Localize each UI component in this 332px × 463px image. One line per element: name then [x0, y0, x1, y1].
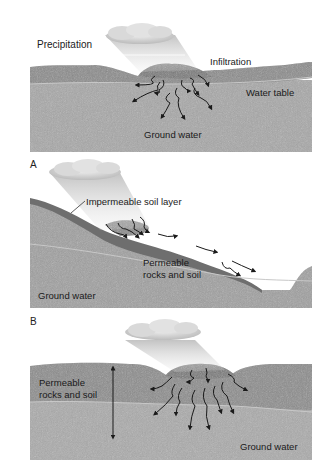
label-ground-water-b: Ground water [240, 441, 298, 452]
label-permeable-a-line2: rocks and soil [143, 269, 201, 280]
panel-a [30, 159, 312, 308]
cloud-icon [106, 23, 174, 44]
label-water-table: Water table [246, 87, 294, 98]
label-permeable-a-line1: Permeable [143, 257, 189, 268]
panel-letter-a: A [30, 159, 37, 170]
label-precipitation: Precipitation [37, 39, 92, 50]
panel-letter-b: B [30, 316, 37, 327]
label-impermeable-soil-layer: Impermeable soil layer [86, 196, 182, 207]
cloud-icon [49, 159, 121, 180]
label-ground-water-top: Ground water [144, 129, 202, 140]
label-ground-water-a: Ground water [38, 290, 96, 301]
cloud-icon [125, 319, 201, 340]
label-infiltration: Infiltration [210, 56, 251, 67]
label-permeable-b-line2: rocks and soil [39, 389, 97, 400]
label-permeable-b-line1: Permeable [39, 377, 85, 388]
